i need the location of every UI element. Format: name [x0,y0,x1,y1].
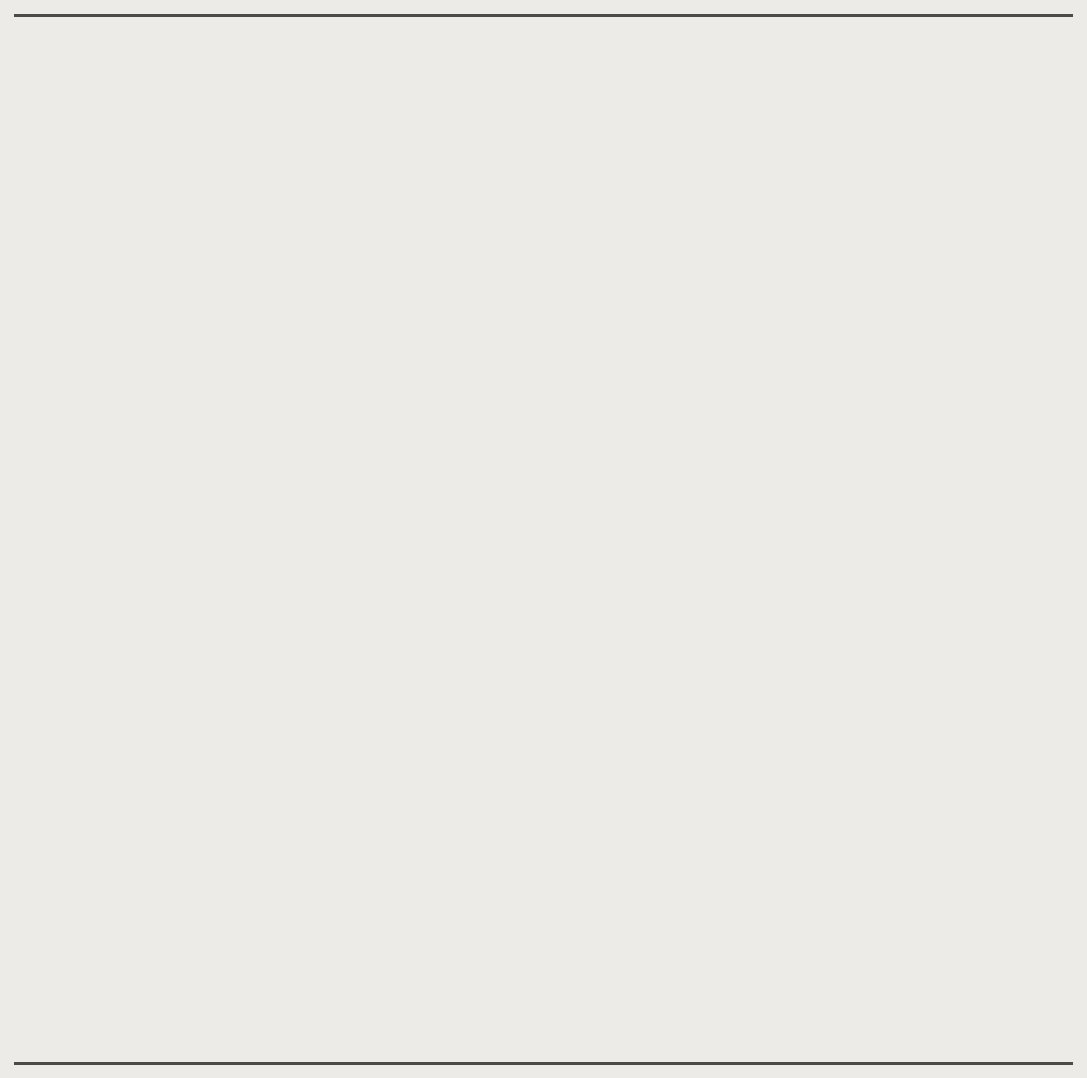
figure-page [0,0,1087,1078]
top-horizontal-rule [14,14,1073,17]
chart-panel-current-account [0,78,1087,568]
bottom-horizontal-rule [14,1062,1073,1065]
chart-panel-niip [0,576,1087,1061]
